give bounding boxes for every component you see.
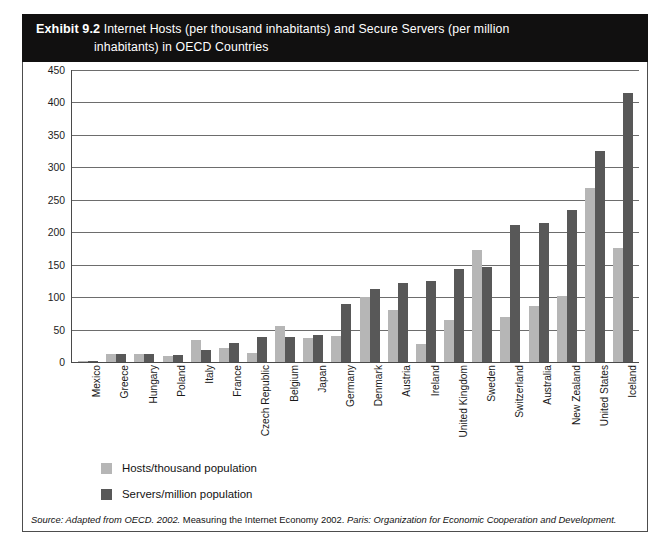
bar <box>426 281 436 362</box>
bar-group <box>609 70 637 362</box>
bar-groups <box>72 70 639 362</box>
bar <box>285 337 295 362</box>
bar <box>529 306 539 362</box>
y-axis-tick: 450 <box>48 65 65 76</box>
bar-group <box>215 70 243 362</box>
bar <box>416 344 426 362</box>
x-axis-label-cell: United States <box>581 363 609 459</box>
bar <box>163 356 173 362</box>
legend-swatch <box>101 489 112 500</box>
x-axis-label-cell: Japan <box>299 363 327 459</box>
legend-label: Servers/million population <box>122 488 252 500</box>
exhibit-title: Exhibit 9.2 Internet Hosts (per thousand… <box>36 21 636 55</box>
x-axis-label-cell: Ireland <box>411 363 439 459</box>
legend-item: Hosts/thousand population <box>101 462 257 474</box>
source-suffix: Paris: Organization for Economic Coopera… <box>347 514 616 525</box>
y-axis-tick: 50 <box>53 324 65 335</box>
bar-group <box>496 70 524 362</box>
exhibit-title-bar: Exhibit 9.2 Internet Hosts (per thousand… <box>22 14 648 62</box>
chart-legend: Hosts/thousand populationServers/million… <box>101 462 257 514</box>
x-axis-label-cell: Germany <box>327 363 355 459</box>
bar <box>247 353 257 362</box>
bar-group <box>525 70 553 362</box>
bar <box>444 320 454 362</box>
y-axis-tick: 350 <box>48 129 65 140</box>
y-axis-tick: 300 <box>48 162 65 173</box>
bar-group <box>158 70 186 362</box>
bar-group <box>327 70 355 362</box>
bar-group <box>553 70 581 362</box>
x-axis-label-cell: Austria <box>383 363 411 459</box>
x-axis-label-cell: Italy <box>186 363 214 459</box>
bar <box>275 326 285 362</box>
bar <box>134 354 144 362</box>
bar <box>398 283 408 362</box>
bar <box>173 355 183 362</box>
x-axis-label-cell: Hungary <box>129 363 157 459</box>
x-axis-label-cell: Belgium <box>270 363 298 459</box>
legend-swatch <box>101 463 112 474</box>
bar-group <box>102 70 130 362</box>
bar <box>191 340 201 362</box>
y-axis-tick: 150 <box>48 259 65 270</box>
x-axis-label-cell: Iceland <box>609 363 637 459</box>
bar-group <box>412 70 440 362</box>
bar-group <box>356 70 384 362</box>
bar <box>557 296 567 362</box>
y-axis-tick: 200 <box>48 227 65 238</box>
bar <box>219 348 229 362</box>
bar <box>116 354 126 362</box>
bar-group <box>271 70 299 362</box>
bar <box>257 337 267 362</box>
y-axis: 050100150200250300350400450 <box>23 62 69 531</box>
bar <box>360 297 370 362</box>
bar <box>370 289 380 362</box>
bar <box>331 336 341 362</box>
y-axis-tick: 250 <box>48 194 65 205</box>
source-prefix: Source: Adapted from OECD. 2002. <box>31 514 180 525</box>
bar-group <box>299 70 327 362</box>
bar <box>595 151 605 362</box>
x-axis-label-cell: Switzerland <box>496 363 524 459</box>
bar <box>303 338 313 362</box>
x-axis-label-cell: Greece <box>101 363 129 459</box>
source-middle: Measuring the Internet Economy 2002. <box>180 514 347 525</box>
bar-group <box>187 70 215 362</box>
y-axis-tick: 400 <box>48 97 65 108</box>
x-axis-label-cell: Denmark <box>355 363 383 459</box>
y-axis-tick: 100 <box>48 292 65 303</box>
bar-group <box>468 70 496 362</box>
bar <box>482 267 492 362</box>
x-axis-label-cell: Sweden <box>468 363 496 459</box>
x-axis-label-cell: Czech Republic <box>242 363 270 459</box>
bar <box>510 225 520 362</box>
x-axis-label-cell: Australia <box>524 363 552 459</box>
bar-group <box>74 70 102 362</box>
bar <box>106 354 116 362</box>
bar <box>88 361 98 362</box>
bar <box>613 248 623 362</box>
exhibit-title-line2: inhabitants) in OECD Countries <box>36 39 636 55</box>
x-axis-label-cell: New Zealand <box>552 363 580 459</box>
bar <box>472 250 482 362</box>
bar-group <box>243 70 271 362</box>
bar <box>313 335 323 362</box>
bar <box>585 188 595 362</box>
bar <box>539 223 549 363</box>
plot-area <box>71 70 639 363</box>
x-axis-label-cell: Mexico <box>73 363 101 459</box>
exhibit-title-line1: Internet Hosts (per thousand inhabitants… <box>104 22 510 36</box>
source-note: Source: Adapted from OECD. 2002. Measuri… <box>31 514 639 525</box>
bar <box>144 354 154 362</box>
bar <box>341 304 351 362</box>
bar-group <box>384 70 412 362</box>
legend-item: Servers/million population <box>101 488 257 500</box>
bar <box>623 93 633 362</box>
bar <box>229 343 239 362</box>
chart-plot-wrapper: 050100150200250300350400450 MexicoGreece… <box>23 62 647 531</box>
bar <box>78 361 88 362</box>
x-axis-label-cell: United Kingdom <box>440 363 468 459</box>
bar <box>201 350 211 362</box>
x-axis-label-cell: Poland <box>158 363 186 459</box>
bar <box>454 269 464 362</box>
